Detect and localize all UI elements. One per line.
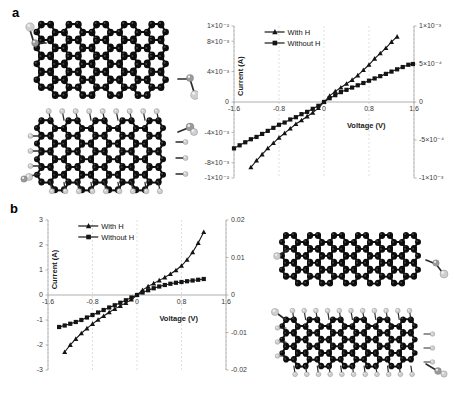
y-axis-tick-label: 1×10⁻² bbox=[207, 22, 230, 29]
data-point bbox=[135, 293, 139, 297]
x-axis-tick-label: 0 bbox=[135, 298, 139, 305]
data-point bbox=[118, 301, 122, 305]
y-axis-tick-label: 1 bbox=[39, 266, 43, 273]
data-point bbox=[311, 107, 315, 111]
data-point bbox=[344, 88, 348, 92]
y-axis-tick-label: -2 bbox=[37, 341, 43, 348]
y-axis-tick-label: 4×10⁻³ bbox=[207, 68, 230, 75]
data-point bbox=[146, 284, 151, 289]
y2-axis-tick-label: 0 bbox=[231, 291, 235, 298]
data-point bbox=[196, 240, 201, 245]
y2-axis-tick-label: -5×10⁻⁴ bbox=[419, 136, 444, 143]
data-point bbox=[74, 320, 78, 324]
y-axis-tick-label: -3 bbox=[37, 366, 43, 373]
data-point bbox=[232, 146, 236, 150]
data-point bbox=[202, 277, 206, 281]
data-point bbox=[168, 271, 173, 276]
y-axis-title: Current (A) bbox=[236, 56, 245, 96]
data-point bbox=[243, 140, 247, 144]
y2-axis-tick-label: 0 bbox=[419, 98, 423, 105]
x-axis-tick-label: 1.6 bbox=[221, 298, 231, 305]
data-point bbox=[294, 115, 298, 119]
series-line-triangle bbox=[65, 232, 204, 352]
data-point bbox=[124, 298, 128, 302]
x-axis-tick-label: 0.8 bbox=[364, 105, 374, 112]
y2-axis-tick-label: -0.02 bbox=[231, 366, 247, 373]
data-point bbox=[157, 278, 162, 283]
data-point bbox=[96, 317, 101, 322]
data-point bbox=[179, 280, 183, 284]
y-axis-tick-label: -1×10⁻² bbox=[205, 174, 230, 181]
y-axis-tick-label: 2 bbox=[39, 241, 43, 248]
data-point bbox=[316, 104, 320, 108]
data-point bbox=[157, 284, 161, 288]
data-point bbox=[63, 323, 67, 327]
panel-b: b 3210-1-2-30.020.010-0.01-0.02-1.6-0.80… bbox=[0, 198, 455, 395]
data-point bbox=[367, 79, 371, 83]
y-axis-tick-label: 3 bbox=[39, 216, 43, 223]
x-axis-tick-label: -1.6 bbox=[228, 105, 240, 112]
legend-label: Without H bbox=[288, 39, 321, 48]
y-axis-tick-label: -8×10⁻³ bbox=[205, 159, 230, 166]
data-point bbox=[401, 65, 405, 69]
data-point bbox=[90, 313, 94, 317]
data-point bbox=[339, 90, 343, 94]
y-axis-tick-label: -1 bbox=[37, 316, 43, 323]
legend-label: With H bbox=[288, 28, 311, 37]
data-point bbox=[378, 74, 382, 78]
data-point bbox=[333, 89, 338, 94]
data-point bbox=[129, 295, 133, 299]
data-point bbox=[196, 278, 200, 282]
data-point bbox=[373, 76, 377, 80]
hydrogenated-graphene-nanoribbon-side-view bbox=[268, 298, 452, 384]
data-point bbox=[389, 70, 393, 74]
structure-svg-b-hydrogenated bbox=[268, 298, 452, 384]
y2-axis-tick-label: 0.01 bbox=[231, 254, 245, 261]
data-point bbox=[113, 303, 117, 307]
legend-label: Without H bbox=[101, 233, 134, 242]
y2-axis-tick-label: 1×10⁻³ bbox=[419, 22, 442, 29]
data-point bbox=[333, 93, 337, 97]
data-point bbox=[146, 288, 150, 292]
data-point bbox=[293, 121, 298, 126]
data-point bbox=[395, 34, 400, 39]
data-point bbox=[254, 135, 258, 139]
y-axis-tick-label: 8×10⁻³ bbox=[207, 38, 230, 45]
data-point bbox=[57, 325, 61, 329]
data-point bbox=[299, 118, 304, 123]
x-axis-tick-label: -0.8 bbox=[86, 298, 98, 305]
y-axis-title: Current (A) bbox=[50, 249, 59, 289]
data-point bbox=[344, 81, 349, 86]
structure-svg-a-hydrogenated bbox=[18, 104, 198, 196]
structure-svg-a-pristine bbox=[18, 16, 198, 102]
data-point bbox=[406, 63, 410, 67]
data-point bbox=[328, 96, 332, 100]
data-point bbox=[338, 85, 343, 90]
data-point bbox=[140, 290, 144, 294]
x-axis-tick-label: 1.6 bbox=[409, 105, 419, 112]
x-axis-tick-label: 0 bbox=[322, 105, 326, 112]
data-point bbox=[238, 143, 242, 147]
iv-curve-chart-b: 3210-1-2-30.020.010-0.01-0.02-1.6-0.800.… bbox=[18, 206, 268, 388]
data-point bbox=[96, 310, 100, 314]
chart-panel-b: 3210-1-2-30.020.010-0.01-0.02-1.6-0.800.… bbox=[18, 206, 268, 388]
y2-axis-tick-label: -1×10⁻³ bbox=[419, 174, 444, 181]
data-point bbox=[85, 315, 89, 319]
hydrogenated-graphene-nanoribbon-top-view bbox=[18, 104, 198, 196]
legend-marker bbox=[86, 235, 91, 240]
data-point bbox=[299, 112, 303, 116]
data-point bbox=[305, 110, 309, 114]
y2-axis-tick-label: 0.02 bbox=[231, 216, 245, 223]
x-axis-title: Voltage (V) bbox=[347, 121, 386, 130]
pristine-graphene-nanoribbon-top-view bbox=[18, 16, 198, 102]
legend-marker bbox=[273, 41, 278, 46]
data-point bbox=[101, 313, 106, 318]
structure-svg-b-pristine bbox=[268, 220, 452, 292]
data-point bbox=[277, 123, 281, 127]
data-point bbox=[107, 305, 111, 309]
data-point bbox=[288, 117, 292, 121]
data-point bbox=[260, 132, 264, 136]
panel-b-label: b bbox=[10, 201, 18, 216]
x-axis-tick-label: 0.8 bbox=[177, 298, 187, 305]
x-axis-tick-label: -1.6 bbox=[42, 298, 54, 305]
